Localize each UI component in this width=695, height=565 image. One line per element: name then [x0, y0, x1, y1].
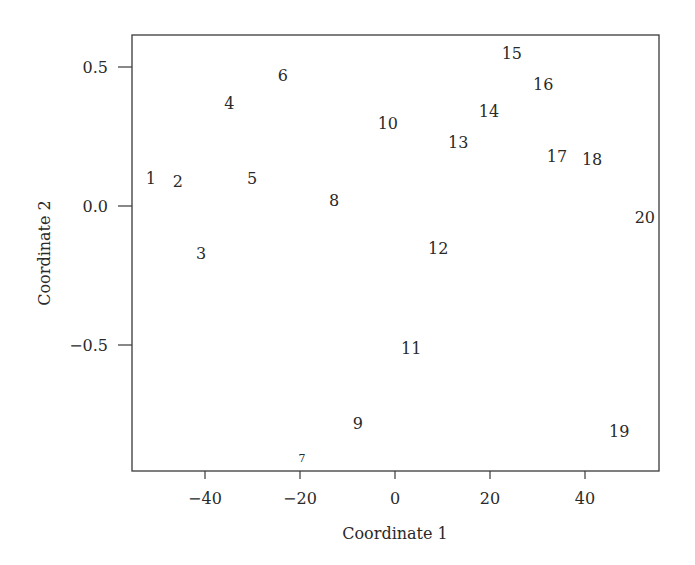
y-tick-label: 0.0	[83, 197, 108, 216]
x-axis: −40−2002040	[188, 471, 595, 508]
plot-frame	[132, 35, 659, 471]
point-label: 17	[547, 147, 567, 166]
point-label: 16	[533, 75, 553, 94]
x-tick-label: −40	[188, 489, 222, 508]
point-label: 10	[378, 114, 398, 133]
x-tick-label: 40	[575, 489, 595, 508]
x-axis-title: Coordinate 1	[342, 524, 448, 543]
point-label: 13	[448, 133, 468, 152]
point-label: 20	[635, 208, 655, 227]
point-label: 7	[298, 452, 305, 465]
point-label: 4	[224, 94, 234, 113]
point-label: 14	[479, 102, 499, 121]
point-label: 3	[196, 244, 206, 263]
y-tick-label: −0.5	[69, 336, 108, 355]
point-label: 6	[278, 66, 288, 85]
point-label: 8	[329, 191, 339, 210]
point-label: 5	[247, 169, 257, 188]
point-label: 12	[428, 239, 448, 258]
point-label: 2	[173, 172, 183, 191]
y-axis-title: Coordinate 2	[35, 200, 54, 306]
x-tick-label: 0	[390, 489, 400, 508]
point-label: 19	[609, 422, 629, 441]
point-label: 15	[502, 44, 522, 63]
y-tick-label: 0.5	[83, 58, 108, 77]
x-tick-label: 20	[480, 489, 500, 508]
data-labels: 1234567891011121314151617181920	[146, 44, 655, 465]
point-label: 9	[353, 414, 363, 433]
point-label: 1	[146, 169, 156, 188]
point-label: 11	[401, 339, 421, 358]
x-tick-label: −20	[283, 489, 317, 508]
point-label: 18	[582, 150, 602, 169]
scatter-chart: −40−2002040 0.50.0−0.5 12345678910111213…	[0, 0, 695, 565]
y-axis: 0.50.0−0.5	[69, 58, 132, 355]
